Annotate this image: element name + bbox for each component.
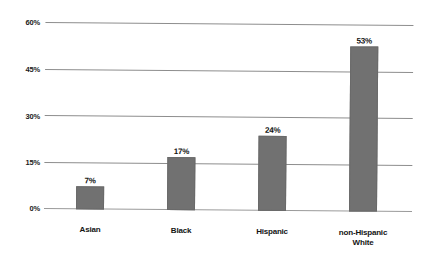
y-tick-45: 45% — [6, 65, 40, 74]
gridline-60 — [45, 22, 413, 26]
bar-value-non-hispanic-white: 53% — [344, 36, 384, 45]
bar-value-asian: 7% — [70, 176, 110, 185]
gridline-layer: 7% 17% 24% 53% — [0, 0, 428, 257]
y-tick-0: 0% — [6, 204, 40, 213]
bar-non-hispanic-white — [349, 46, 378, 211]
plot-area: 7% 17% 24% 53% 60% 45% 30% 15% 0% Asian … — [0, 0, 428, 257]
bar-chart: 7% 17% 24% 53% 60% 45% 30% 15% 0% Asian … — [0, 0, 428, 257]
bar-black — [167, 157, 195, 210]
x-label-non-hispanic-white: non-Hispanic White — [333, 228, 393, 248]
y-axis-tick-labels: 60% 45% 30% 15% 0% — [0, 0, 40, 257]
y-tick-30: 30% — [6, 112, 40, 121]
y-tick-15: 15% — [6, 158, 40, 167]
x-label-hispanic: Hispanic — [242, 227, 302, 237]
bar-value-black: 17% — [161, 147, 201, 156]
bar-asian — [76, 186, 104, 209]
bar-value-hispanic: 24% — [253, 126, 293, 135]
x-label-asian: Asian — [60, 225, 120, 235]
bar-hispanic — [258, 136, 287, 211]
y-tick-60: 60% — [6, 18, 40, 27]
x-label-black: Black — [151, 226, 211, 236]
